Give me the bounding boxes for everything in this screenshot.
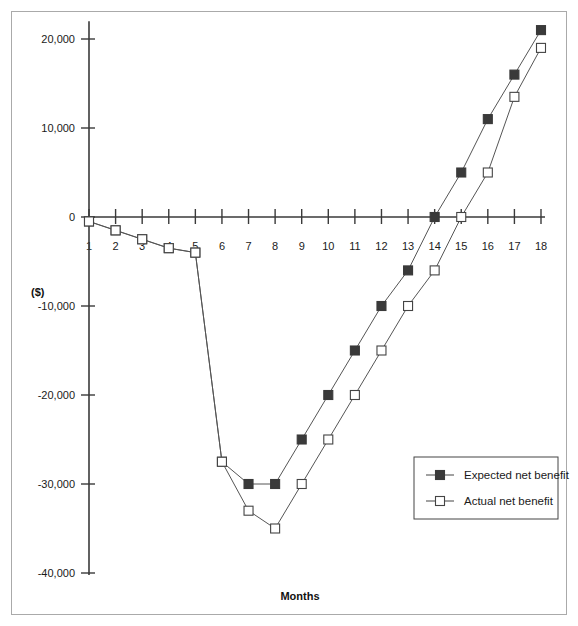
y-tick-label: 10,000	[41, 122, 75, 134]
y-tick-label: -10,000	[38, 300, 75, 312]
chart-figure: 20,00010,0000-10,000-20,000-30,000-40,00…	[0, 0, 578, 626]
y-tick-label: -30,000	[38, 478, 75, 490]
data-point-marker	[271, 480, 280, 489]
data-point-marker	[377, 302, 386, 311]
data-point-marker	[510, 70, 519, 79]
legend-marker-open-square	[436, 497, 445, 506]
data-point-marker	[297, 435, 306, 444]
x-tick-label: 16	[482, 240, 494, 252]
data-point-marker	[404, 266, 413, 275]
legend-label[interactable]: Expected net benefit	[464, 469, 570, 481]
x-axis-ticks: 123456789101112131415161718	[86, 209, 547, 252]
data-point-marker	[377, 346, 386, 355]
x-tick-label: 12	[375, 240, 387, 252]
data-point-marker	[85, 217, 94, 226]
data-point-marker	[430, 213, 439, 222]
chart-legend[interactable]: Expected net benefitActual net benefit	[414, 457, 570, 519]
y-tick-label: 0	[69, 211, 75, 223]
x-tick-label: 14	[429, 240, 441, 252]
x-tick-label: 2	[113, 240, 119, 252]
y-tick-label: -20,000	[38, 389, 75, 401]
x-tick-label: 6	[219, 240, 225, 252]
x-tick-label: 18	[535, 240, 547, 252]
data-point-marker	[483, 115, 492, 124]
y-axis-ticks: 20,00010,0000-10,000-20,000-30,000-40,00…	[38, 33, 95, 579]
x-tick-label: 17	[508, 240, 520, 252]
data-point-marker	[217, 457, 226, 466]
data-point-marker	[324, 391, 333, 400]
y-tick-label: -40,000	[38, 567, 75, 579]
x-tick-label: 7	[245, 240, 251, 252]
x-axis-title: Months	[280, 590, 319, 602]
x-tick-label: 13	[402, 240, 414, 252]
data-point-marker	[404, 302, 413, 311]
y-axis-title: ($)	[31, 286, 45, 298]
x-tick-label: 15	[455, 240, 467, 252]
data-point-marker	[483, 168, 492, 177]
y-tick-label: 20,000	[41, 33, 75, 45]
legend-box	[414, 457, 558, 519]
data-point-marker	[537, 26, 546, 35]
series-expected-net-benefit	[85, 26, 546, 489]
data-point-marker	[324, 435, 333, 444]
series-line	[89, 48, 541, 529]
data-point-marker	[244, 506, 253, 515]
data-point-marker	[350, 346, 359, 355]
data-point-marker	[510, 92, 519, 101]
data-point-marker	[537, 43, 546, 52]
data-point-marker	[164, 244, 173, 253]
line-chart-plot: 20,00010,0000-10,000-20,000-30,000-40,00…	[0, 0, 578, 626]
data-point-marker	[271, 524, 280, 533]
data-point-marker	[430, 266, 439, 275]
legend-label[interactable]: Actual net benefit	[464, 495, 554, 507]
legend-marker-filled-square	[436, 471, 445, 480]
x-tick-label: 9	[299, 240, 305, 252]
data-point-marker	[297, 480, 306, 489]
series-line	[89, 30, 541, 484]
data-point-marker	[191, 248, 200, 257]
x-tick-label: 8	[272, 240, 278, 252]
data-point-marker	[457, 168, 466, 177]
data-point-marker	[244, 480, 253, 489]
x-tick-label: 10	[322, 240, 334, 252]
data-point-marker	[138, 235, 147, 244]
data-point-marker	[350, 391, 359, 400]
data-point-marker	[457, 213, 466, 222]
data-point-marker	[111, 226, 120, 235]
x-tick-label: 11	[349, 240, 360, 252]
